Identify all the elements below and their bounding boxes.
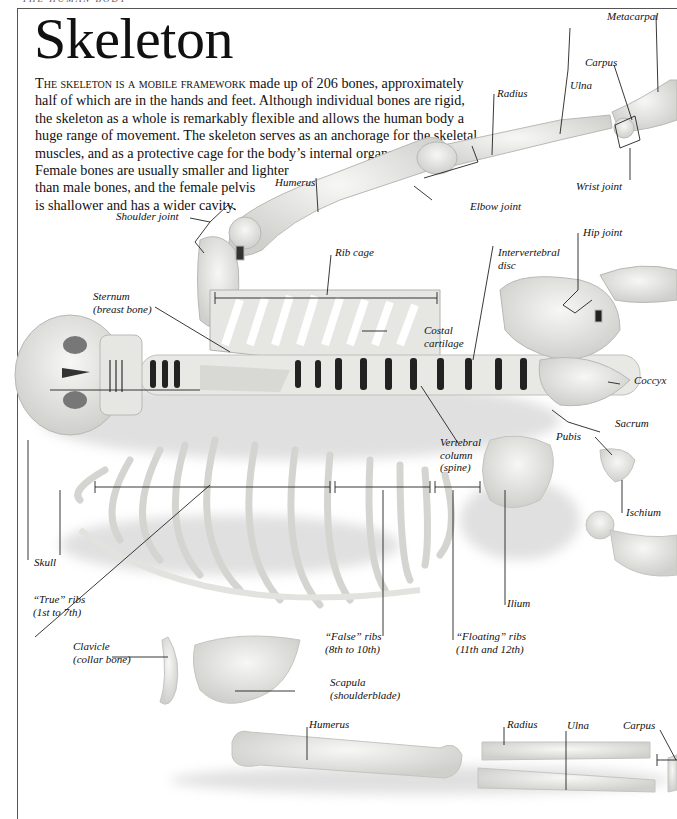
elbow-bone [417, 142, 457, 174]
label-shoulder-joint: Shoulder joint [116, 210, 179, 223]
label-radius-bottom: Radius [507, 718, 538, 731]
label-false-ribs: “False” ribs (8th to 10th) [325, 630, 382, 655]
pubis-bone [600, 449, 635, 482]
clavicle-bone [160, 637, 178, 704]
label-hip-joint: Hip joint [583, 226, 622, 239]
humeral-head [229, 217, 261, 249]
label-sternum: Sternum (breast bone) [93, 290, 152, 315]
label-sacrum: Sacrum [615, 417, 649, 430]
label-true-ribs: “True” ribs (1st to 7th) [33, 593, 85, 618]
hip-pin [595, 310, 602, 322]
femur-upper [600, 266, 677, 303]
label-wrist-joint: Wrist joint [576, 180, 622, 193]
label-radius-top: Radius [497, 87, 528, 100]
label-intervertebral-disc: Intervertebral disc [498, 246, 560, 271]
label-humerus-top: Humerus [275, 176, 315, 189]
label-ulna-top: Ulna [570, 79, 592, 92]
humerus-bone [228, 137, 448, 255]
label-costal-cartilage: Costal cartilage [424, 324, 464, 349]
label-metacarpal: Metacarpal [607, 10, 658, 23]
scapula-bone [193, 636, 300, 703]
label-ilium: Ilium [507, 597, 530, 610]
label-carpus-top: Carpus [585, 56, 617, 69]
shoulder-pin [236, 246, 244, 260]
label-elbow-joint: Elbow joint [470, 200, 521, 213]
femoral-head [586, 511, 614, 539]
femur-lower [610, 530, 677, 576]
label-rib-cage: Rib cage [335, 246, 374, 259]
label-clavicle: Clavicle (collar bone) [73, 640, 131, 665]
label-ulna-bottom: Ulna [567, 719, 589, 732]
label-floating-ribs: “Floating” ribs (11th and 12th) [456, 630, 526, 655]
label-ischium: Ischium [626, 506, 661, 519]
rib-cage [210, 290, 440, 360]
label-pubis: Pubis [556, 430, 581, 443]
label-skull: Skull [34, 556, 56, 569]
lower-shoulder-bones [160, 636, 300, 704]
label-coccyx: Coccyx [634, 374, 666, 387]
label-scapula: Scapula (shoulderblade) [330, 676, 400, 701]
label-vertebral-column: Vertebral column (spine) [440, 436, 481, 474]
label-humerus-bottom: Humerus [309, 718, 349, 731]
carpus-lower [668, 755, 677, 792]
label-carpus-bottom: Carpus [623, 719, 655, 732]
